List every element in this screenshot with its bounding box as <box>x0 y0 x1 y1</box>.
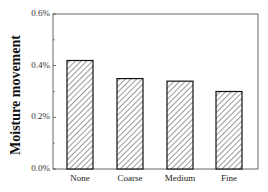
bar-fine <box>216 92 242 170</box>
bar-coarse <box>117 79 143 169</box>
bar-chart: Moisture movement 0.0%0.2%0.4%0.6% NoneC… <box>0 0 268 192</box>
bar-medium <box>167 81 193 169</box>
x-tick-label: Coarse <box>105 173 155 183</box>
y-tick-label: 0.0% <box>20 163 50 173</box>
y-tick-label: 0.4% <box>20 60 50 70</box>
y-tick-label: 0.6% <box>20 8 50 18</box>
y-tick-label: 0.2% <box>20 111 50 121</box>
x-tick-label: None <box>55 173 105 183</box>
x-tick-label: Fine <box>204 173 254 183</box>
x-tick-label: Medium <box>155 173 205 183</box>
bar-none <box>67 61 93 170</box>
